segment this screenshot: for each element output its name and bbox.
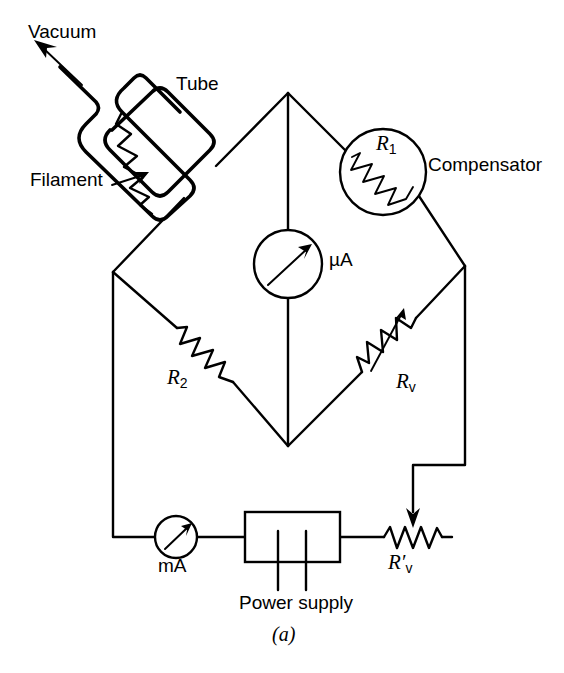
wire-r1-to-right-vertex [413,187,465,266]
wire-left-vertex-to-supply-loop [113,272,155,537]
wire-top-apex-to-r1 [288,93,352,157]
label-rv: Rv [396,371,416,392]
tube-glass-envelope [60,67,194,220]
label-rv-prime-main: R [388,550,401,574]
label-r2-subscript: 2 [180,375,188,391]
label-milliammeter: mA [158,556,187,575]
milliammeter-circle [155,516,197,558]
label-tube: Tube [176,74,219,93]
label-r1-subscript: 1 [389,141,397,157]
wire-right-vertex-to-rv-prime-wiper [413,266,465,512]
rv-prime-resistor-zigzag [384,527,442,548]
label-compensator: Compensator [428,155,542,174]
wire-r2-to-bottom-vertex [233,382,288,446]
label-vacuum: Vacuum [28,22,96,41]
figure-caption: (a) [272,624,295,644]
rv-adjust-arrow [371,308,406,371]
label-r1-main: R [376,131,389,155]
label-r2-main: R [167,365,180,389]
vacuum-arrow [34,40,82,85]
label-rv-prime: R′v [388,552,412,573]
wire-right-vertex-to-rv [416,266,465,318]
power-supply-box [245,512,340,562]
wire-top-apex-to-tube [216,93,288,166]
circuit-schematic-canvas [0,0,564,673]
wire-left-vertex-to-r2 [113,272,177,328]
rv-resistor-zigzag [357,318,416,372]
label-r1: R1 [376,133,397,154]
label-rv-main: R [396,369,409,393]
label-power-supply: Power supply [239,593,353,612]
wire-rv-to-bottom-vertex [288,372,362,446]
label-r2: R2 [167,367,188,388]
label-rv-subscript: v [409,379,416,395]
microammeter-circle [254,230,322,298]
circuit-diagram-figure: Vacuum Tube Filament Compensator µA mA P… [0,0,564,673]
label-filament: Filament [30,170,103,189]
label-rv-prime-subscript: v [405,560,412,576]
label-microammeter: µA [329,250,353,269]
